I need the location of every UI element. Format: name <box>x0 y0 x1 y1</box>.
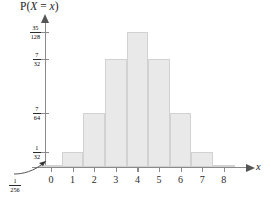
x-axis-tick-label: 3 <box>108 174 124 185</box>
y-axis-tick <box>41 59 49 60</box>
tick-numerator: 35 <box>30 24 41 31</box>
callout-value-label: 1 256 <box>2 177 28 196</box>
tick-numerator: 7 <box>33 51 41 58</box>
x-axis-arrow-icon <box>246 164 255 172</box>
tick-denominator: 64 <box>33 114 41 121</box>
y-axis-line <box>45 22 46 168</box>
tick-denominator: 32 <box>33 60 41 67</box>
x-axis-tick-label: 4 <box>129 174 145 185</box>
x-axis-tick <box>181 167 182 172</box>
histogram-bar <box>191 152 213 167</box>
x-axis-tick <box>224 167 225 172</box>
y-axis-title-suffix: ) <box>55 0 59 12</box>
x-axis-tick <box>202 167 203 172</box>
x-axis-tick <box>116 167 117 172</box>
callout-numerator: 1 <box>9 177 20 184</box>
x-axis-tick-label: 1 <box>65 174 81 185</box>
y-axis-tick <box>41 32 49 33</box>
callout-denominator: 256 <box>9 186 20 193</box>
probability-histogram-chart: P(X = x) x 35128732764132 012345678 1 25… <box>0 0 271 199</box>
y-axis-arrow-icon <box>41 14 49 23</box>
x-axis-tick <box>137 167 138 172</box>
x-axis-tick <box>159 167 160 172</box>
y-axis-title-prefix: P( <box>20 0 30 12</box>
y-axis-title: P(X = x) <box>20 0 58 12</box>
x-axis-tick <box>94 167 95 172</box>
histogram-bar <box>170 113 192 167</box>
callout-arrow-icon <box>12 148 60 176</box>
y-axis-tick <box>41 113 49 114</box>
x-axis-tick-label: 2 <box>86 174 102 185</box>
x-axis-tick-label: 6 <box>173 174 189 185</box>
histogram-bar <box>105 59 127 167</box>
y-axis-tick-label: 764 <box>17 105 41 124</box>
x-axis-tick <box>73 167 74 172</box>
x-axis-title: x <box>256 161 261 172</box>
x-axis-tick-label: 8 <box>216 174 232 185</box>
y-axis-tick-label: 35128 <box>17 24 41 43</box>
y-axis-tick-label: 732 <box>17 51 41 70</box>
tick-denominator: 128 <box>30 33 41 40</box>
x-axis-tick-label: 5 <box>151 174 167 185</box>
tick-numerator: 7 <box>33 105 41 112</box>
x-axis-tick-label: 7 <box>194 174 210 185</box>
histogram-bar <box>148 59 170 167</box>
histogram-bar <box>127 32 149 167</box>
histogram-bar <box>62 152 84 167</box>
y-axis-title-equals: = <box>37 0 49 12</box>
histogram-bar <box>83 113 105 167</box>
